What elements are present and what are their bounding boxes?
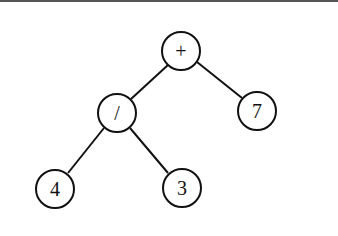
- node-seven: 7: [238, 92, 276, 130]
- node-label-divide: /: [114, 102, 120, 124]
- expression-tree-diagram: + / 7 4 3: [0, 0, 338, 236]
- edges: [68, 62, 242, 173]
- node-label-seven: 7: [252, 100, 262, 122]
- node-label-four: 4: [50, 178, 60, 200]
- edge-div-three: [130, 128, 168, 173]
- node-label-plus: +: [175, 40, 186, 62]
- node-three: 3: [163, 169, 201, 207]
- node-root: +: [162, 32, 200, 70]
- edge-root-div: [131, 65, 168, 99]
- node-label-three: 3: [177, 177, 187, 199]
- node-four: 4: [36, 170, 74, 208]
- node-divide: /: [98, 94, 136, 132]
- edge-root-seven: [197, 62, 242, 98]
- edge-div-four: [68, 128, 104, 173]
